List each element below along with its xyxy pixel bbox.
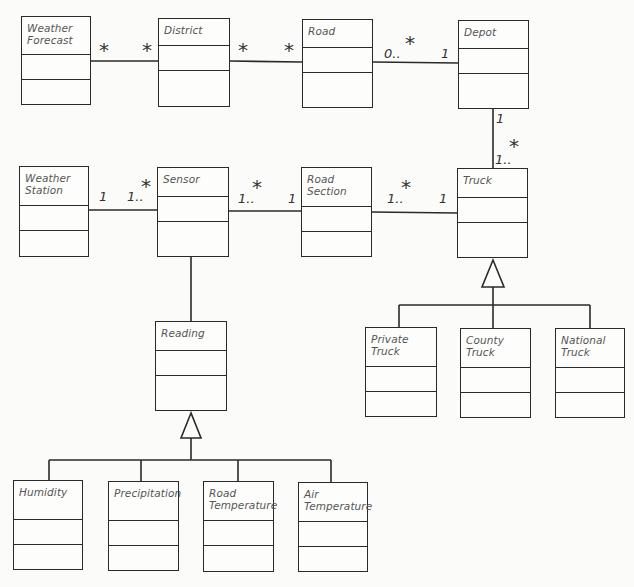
class-reading[interactable]: Reading (155, 321, 227, 411)
class-private-truck[interactable]: Private Truck (365, 327, 437, 417)
generalization-arrow-truck (482, 260, 504, 287)
class-name: Private Truck (366, 328, 436, 367)
class-attributes (204, 521, 273, 546)
class-name: Road Section (302, 168, 371, 207)
class-name: Air Temperature (299, 483, 367, 522)
class-road[interactable]: Road (302, 19, 373, 108)
class-name: National Truck (556, 329, 624, 368)
class-name: Weather Station (20, 167, 88, 206)
class-attributes (20, 206, 88, 231)
class-truck[interactable]: Truck (457, 168, 528, 258)
class-name: Road (303, 20, 372, 48)
class-name: Road Temperature (204, 482, 273, 521)
class-district[interactable]: District (158, 18, 230, 107)
multiplicity-label: * (401, 177, 411, 197)
multiplicity-label: * (252, 177, 262, 197)
class-name: Sensor (158, 168, 228, 197)
class-attributes (14, 520, 82, 545)
multiplicity-label: * (99, 40, 109, 60)
generalization-arrow-reading (181, 413, 201, 438)
multiplicity-label: * (142, 40, 152, 60)
class-name: County Truck (461, 329, 530, 368)
class-attributes (458, 198, 527, 223)
class-name: Depot (459, 21, 528, 49)
class-attributes (366, 367, 436, 392)
class-attributes (159, 46, 229, 71)
class-name: Weather Forecast (22, 17, 90, 55)
association-road-depot (373, 62, 458, 63)
class-sensor[interactable]: Sensor (157, 167, 229, 257)
multiplicity-label: 1 (439, 192, 447, 205)
class-name: Precipitation (109, 482, 178, 521)
class-precipitation[interactable]: Precipitation (108, 481, 179, 571)
multiplicity-label: 0.. (384, 47, 401, 60)
class-attributes (556, 368, 624, 393)
class-name: District (159, 19, 229, 46)
class-name: Truck (458, 169, 527, 198)
multiplicity-label: * (509, 136, 519, 156)
class-weather-station[interactable]: Weather Station (19, 166, 89, 257)
class-national-truck[interactable]: National Truck (555, 328, 625, 418)
multiplicity-label: * (141, 176, 151, 196)
multiplicity-label: * (284, 40, 294, 60)
association-roadsection-truck (372, 212, 457, 213)
class-attributes (158, 197, 228, 222)
class-air-temperature[interactable]: Air Temperature (298, 482, 368, 572)
class-road-temperature[interactable]: Road Temperature (203, 481, 274, 572)
class-attributes (22, 55, 90, 80)
class-name: Reading (156, 322, 226, 351)
multiplicity-label: 1 (99, 190, 107, 203)
class-attributes (156, 351, 226, 376)
class-depot[interactable]: Depot (458, 20, 529, 109)
class-attributes (109, 521, 178, 546)
class-attributes (299, 522, 367, 547)
multiplicity-label: 1 (496, 112, 504, 125)
multiplicity-label: * (405, 33, 415, 53)
class-road-section[interactable]: Road Section (301, 167, 372, 257)
class-attributes (303, 48, 372, 73)
class-weather-forecast[interactable]: Weather Forecast (21, 16, 91, 105)
class-attributes (459, 49, 528, 74)
class-humidity[interactable]: Humidity (13, 480, 83, 570)
class-name: Humidity (14, 481, 82, 520)
multiplicity-label: 1 (441, 47, 449, 60)
multiplicity-label: 1 (288, 192, 296, 205)
uml-diagram-canvas: Weather Forecast District Road Depot Wea… (0, 0, 634, 587)
class-attributes (461, 368, 530, 393)
multiplicity-label: * (238, 40, 248, 60)
class-county-truck[interactable]: County Truck (460, 328, 531, 418)
class-attributes (302, 207, 371, 232)
